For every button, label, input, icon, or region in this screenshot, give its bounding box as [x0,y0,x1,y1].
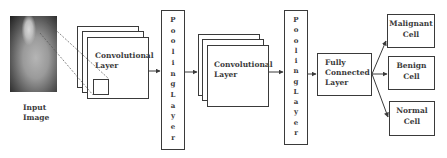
arrow-fc-to-malignant [372,41,386,74]
projection-line-top [47,22,109,79]
arrow-fc-to-normal [372,74,388,117]
projection-line-bottom [40,33,93,95]
connector-arrows [0,0,447,158]
